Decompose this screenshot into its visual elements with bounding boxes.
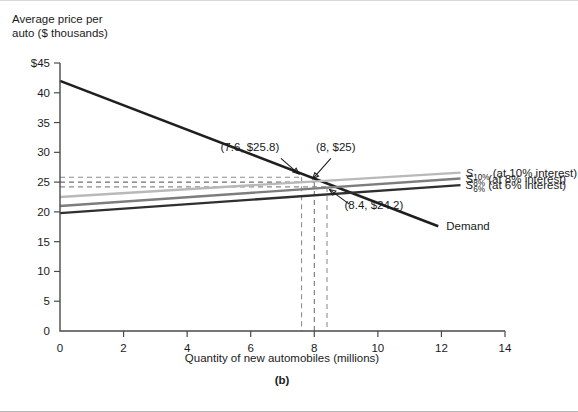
x-axis-title: Quantity of new automobiles (millions) [185, 352, 379, 364]
y-tick-label: 5 [44, 295, 50, 307]
y-tick-label: $45 [31, 57, 50, 69]
equilibrium-label-1: (8, $25) [316, 141, 356, 153]
legend-label-demand: Demand [446, 220, 489, 232]
legend-group: S10% (at 10% interest)S8% (at 8% interes… [446, 167, 577, 233]
x-tick-label: 12 [435, 342, 448, 354]
y-tick-label: 15 [37, 236, 50, 248]
y-tick-label: 0 [44, 325, 50, 337]
y-tick-label: 30 [37, 146, 50, 158]
axes-group: 0510152025303540$4502468101214 [31, 57, 512, 354]
supply-demand-chart: 0510152025303540$4502468101214 (7.6, $25… [0, 1, 578, 412]
equilibrium-label-2: (8.4, $24.2) [344, 199, 403, 211]
x-tick-label: 2 [120, 342, 126, 354]
equilibrium-arrow-1 [313, 158, 331, 179]
y-tick-label: 25 [37, 176, 50, 188]
y-axis-title-line1: Average price per [12, 13, 103, 25]
figure-panel-b: 0510152025303540$4502468101214 (7.6, $25… [0, 0, 578, 412]
y-tick-label: 40 [37, 87, 50, 99]
x-tick-label: 0 [57, 342, 63, 354]
x-tick-label: 14 [499, 342, 512, 354]
equilibrium-label-0: (7.6, $25.8) [221, 141, 280, 153]
y-tick-label: 20 [37, 206, 50, 218]
y-axis-title-line2: auto ($ thousands) [12, 27, 108, 39]
y-tick-label: 35 [37, 117, 50, 129]
panel-caption: (b) [275, 374, 290, 386]
y-tick-label: 10 [37, 265, 50, 277]
guide-lines-group [60, 177, 327, 331]
